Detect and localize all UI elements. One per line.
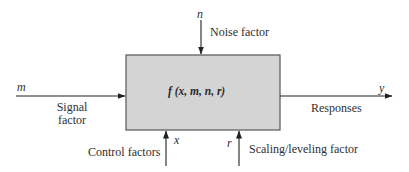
noise-symbol: n xyxy=(197,8,203,20)
scaling-symbol: r xyxy=(227,137,232,149)
noise-label: Noise factor xyxy=(210,26,269,39)
control-label: Control factors xyxy=(88,146,160,159)
response-label: Responses xyxy=(311,102,362,115)
signal-label-line2: factor xyxy=(52,114,92,127)
signal-label: Signal factor xyxy=(52,101,92,127)
block-function-label: f (x, m, n, r) xyxy=(168,85,225,98)
control-symbol: x xyxy=(174,134,179,146)
response-symbol: y xyxy=(379,82,384,94)
signal-symbol: m xyxy=(17,81,26,93)
scaling-label: Scaling/leveling factor xyxy=(249,143,358,156)
